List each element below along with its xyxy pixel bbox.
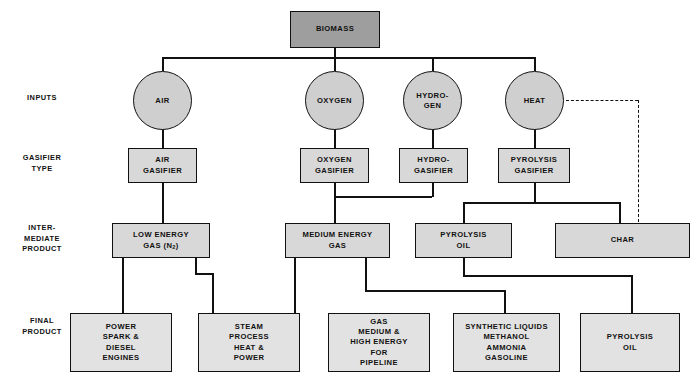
connector-bus-to-oxygen <box>334 57 336 71</box>
connector-heat-to-char-dashed-vertical <box>638 100 639 222</box>
connector-pyrolysis-oil-drop <box>463 258 465 276</box>
connector-low-energy-gas-to-power <box>122 258 124 313</box>
node-power-spark-diesel-engines[interactable]: POWER SPARK & DIESEL ENGINES <box>70 313 172 372</box>
node-steam-process-heat-power[interactable]: STEAM PROCESS HEAT & POWER <box>198 313 300 372</box>
node-pyrolysis-gasifier[interactable]: PYROLYSIS GASIFIER <box>498 148 570 183</box>
node-low-energy-gas-label: LOW ENERGY GAS (N2) <box>133 230 189 250</box>
node-medium-energy-gas[interactable]: MEDIUM ENERGY GAS <box>285 223 390 258</box>
connector-low-energy-gas-steam-tail <box>212 273 214 313</box>
connector-split-to-pyrolysis-oil <box>463 202 465 223</box>
diagram-canvas: INPUTS GASIFIER TYPE INTER- MEDIATE PROD… <box>0 0 699 389</box>
connector-bus-to-hydrogen <box>432 57 434 71</box>
connector-medium-energy-gas-synthetic-drop <box>365 258 367 291</box>
connector-air-to-air-gasifier <box>162 129 164 149</box>
row-label-final-product: FINAL PRODUCT <box>6 316 78 337</box>
node-pyrolysis-oil[interactable]: PYROLYSIS OIL <box>415 223 512 258</box>
connector-medium-energy-gas-synthetic-tail <box>504 290 506 313</box>
connector-oxygen-to-oxygen-gasifier <box>334 129 336 149</box>
connector-air-gasifier-to-low-energy-gas <box>162 183 164 223</box>
node-input-heat[interactable]: HEAT <box>505 71 564 130</box>
row-label-inputs: INPUTS <box>6 93 78 104</box>
connector-input-bus <box>162 57 536 59</box>
connector-merge-to-medium-energy-gas <box>334 196 336 223</box>
node-hydrogasifier[interactable]: HYDRO- GASIFIER <box>399 148 468 183</box>
connector-bus-to-heat <box>534 57 536 71</box>
node-input-air[interactable]: AIR <box>133 71 192 130</box>
connector-low-energy-gas-steam-drop <box>195 258 197 274</box>
row-label-gasifier-type: GASIFIER TYPE <box>6 153 78 174</box>
connector-oxygen-gasifier-drop <box>334 183 336 197</box>
connector-bus-to-air <box>162 57 164 71</box>
node-biomass[interactable]: BIOMASS <box>290 11 380 48</box>
node-oxygen-gasifier[interactable]: OXYGEN GASIFIER <box>300 148 369 183</box>
connector-medium-energy-gas-to-gas-pipeline <box>294 258 296 313</box>
node-air-gasifier[interactable]: AIR GASIFIER <box>128 148 197 183</box>
node-input-oxygen[interactable]: OXYGEN <box>305 71 364 130</box>
node-low-energy-gas[interactable]: LOW ENERGY GAS (N2) <box>112 223 210 258</box>
connector-pyrolysis-oil-jog <box>463 275 633 277</box>
node-final-pyrolysis-oil[interactable]: PYROLYSIS OIL <box>580 313 680 372</box>
node-synthetic-liquids[interactable]: SYNTHETIC LIQUIDS METHANOL AMMONIA GASOL… <box>453 313 560 372</box>
node-input-hydrogen[interactable]: HYDRO- GEN <box>403 71 462 130</box>
connector-split-to-char <box>619 202 621 223</box>
connector-oxygen-hydro-merge-bar <box>334 196 432 198</box>
connector-pyrolysis-oil-tail <box>631 275 633 313</box>
connector-pyrolysis-split-bar <box>463 202 620 204</box>
row-label-intermediate-product: INTER- MEDIATE PRODUCT <box>6 223 78 255</box>
connector-medium-energy-gas-synthetic-jog <box>365 290 505 292</box>
node-char[interactable]: CHAR <box>555 223 690 258</box>
connector-pyrolysis-gasifier-drop <box>534 183 536 203</box>
connector-heat-to-char-dashed-horizontal <box>566 100 638 101</box>
connector-hydrogen-to-hydrogasifier <box>432 129 434 149</box>
connector-hydrogasifier-drop <box>432 183 434 197</box>
node-gas-pipeline[interactable]: GAS MEDIUM & HIGH ENERGY FOR PIPELINE <box>328 313 430 372</box>
connector-heat-to-pyrolysis-gasifier <box>534 129 536 149</box>
